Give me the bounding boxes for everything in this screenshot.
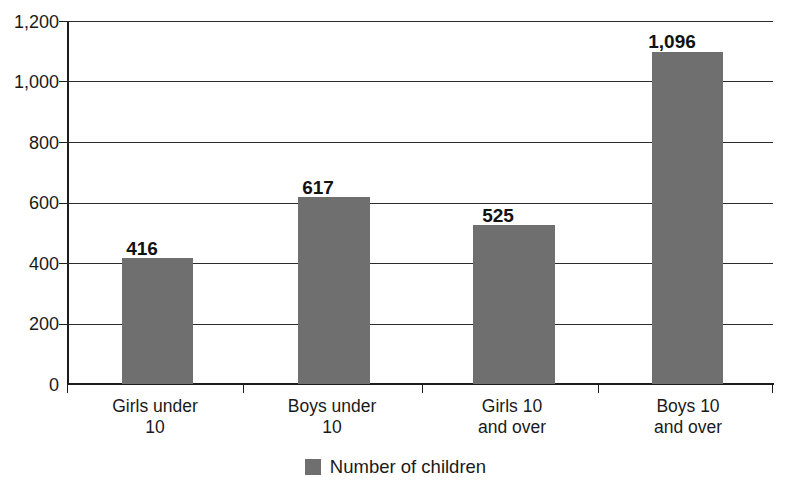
bar-boys-10-and-over[interactable] [652, 52, 723, 384]
gridline-1200 [67, 21, 773, 22]
bar-value-girls-10-and-over: 525 [448, 206, 548, 225]
y-axis-tick-label-1200: 1,200 [0, 13, 59, 31]
x-tick-0 [67, 384, 68, 393]
x-axis-label-girls-10-and-over: Girls 10 and over [447, 396, 577, 439]
x-tick-1 [243, 384, 244, 393]
y-tick-400 [59, 263, 67, 264]
y-tick-600 [59, 203, 67, 204]
bar-value-boys-10-and-over: 1,096 [622, 32, 722, 51]
legend-label-number-of-children: Number of children [330, 458, 486, 477]
x-axis-label-boys-10-and-over: Boys 10 and over [623, 396, 753, 439]
plot-area [67, 21, 773, 384]
y-axis-tick-label-1000: 1,000 [0, 73, 59, 91]
y-axis-tick-label-0: 0 [0, 376, 59, 394]
bar-value-girls-under-10: 416 [92, 239, 192, 258]
y-axis-tick-label-200: 200 [0, 315, 59, 333]
chart-legend: Number of children [0, 458, 791, 477]
x-axis-label-boys-under-10: Boys under 10 [267, 396, 397, 439]
x-axis-right-cap [772, 384, 773, 393]
x-tick-2 [422, 384, 423, 393]
legend-swatch-icon [305, 459, 321, 475]
y-axis-tick-label-800: 800 [0, 134, 59, 152]
bar-girls-10-and-over[interactable] [473, 225, 555, 384]
chart-title-cropped [250, 0, 550, 2]
y-tick-200 [59, 324, 67, 325]
x-tick-3 [598, 384, 599, 393]
y-axis-tick-label-400: 400 [0, 255, 59, 273]
bar-girls-under-10[interactable] [122, 258, 193, 384]
bar-chart: 1,200 1,000 800 600 400 200 0 416 617 52… [0, 0, 791, 493]
y-tick-1200 [59, 21, 67, 22]
y-tick-800 [59, 142, 67, 143]
x-axis-label-girls-under-10: Girls under 10 [90, 396, 220, 439]
bar-value-boys-under-10: 617 [268, 178, 368, 197]
bar-boys-under-10[interactable] [298, 197, 370, 384]
y-axis-labels: 1,200 1,000 800 600 400 200 0 [0, 21, 59, 384]
y-axis-tick-label-600: 600 [0, 194, 59, 212]
y-tick-1000 [59, 81, 67, 82]
